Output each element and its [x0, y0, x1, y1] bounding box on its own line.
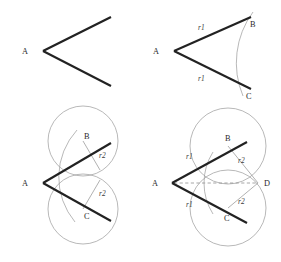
- panel4-lower-circle-radius-label: r2: [238, 197, 245, 206]
- panel2-upper-radius-label: r1: [198, 23, 205, 32]
- panel3-upper-radius-label: r2: [99, 151, 106, 160]
- panel4-point-b-label: B: [225, 134, 231, 143]
- panel1-lower-ray: [43, 51, 111, 86]
- panel1-vertex-label: A: [22, 47, 28, 56]
- angle-bisector-figure: A A B C r1 r1 A B C r2 r2: [0, 0, 281, 262]
- panel2-point-c-label: C: [246, 92, 252, 101]
- panel-step-1: A: [22, 17, 111, 86]
- panel-step-2: A B C r1 r1: [153, 12, 256, 101]
- construction-canvas: A A B C r1 r1 A B C r2 r2: [0, 0, 281, 262]
- panel3-upper-ray: [43, 143, 111, 183]
- panel4-upper-arm-radius-label: r1: [186, 152, 193, 161]
- panel-step-4: A B C D r1 r1 r2 r2: [152, 108, 270, 246]
- panel4-upper-ray: [172, 142, 247, 183]
- panel4-vertex-label: A: [152, 179, 158, 188]
- panel4-lower-ray: [172, 183, 247, 223]
- panel4-point-c-label: C: [224, 214, 230, 223]
- panel2-vertex-label: A: [153, 47, 159, 56]
- panel2-lower-radius-label: r1: [198, 74, 205, 83]
- panel-step-3: A B C r2 r2: [22, 106, 118, 244]
- panel1-upper-ray: [43, 17, 111, 51]
- panel4-upper-circle-radius-label: r2: [238, 156, 245, 165]
- panel3-radius-line-from-c: [83, 180, 100, 209]
- panel4-point-d-label: D: [264, 179, 270, 188]
- panel3-point-b-label: B: [84, 132, 90, 141]
- panel2-lower-ray: [174, 51, 251, 89]
- panel3-lower-radius-label: r2: [99, 189, 106, 198]
- panel3-arc-radius-r1: [59, 130, 77, 222]
- panel3-point-c-label: C: [84, 212, 90, 221]
- panel2-upper-ray: [174, 17, 251, 51]
- panel3-vertex-label: A: [22, 179, 28, 188]
- panel4-lower-arm-radius-label: r1: [186, 200, 193, 209]
- panel2-point-b-label: B: [250, 20, 256, 29]
